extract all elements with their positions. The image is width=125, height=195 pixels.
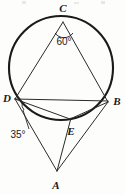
angle-label-35: 35° (10, 129, 25, 140)
main-circle (9, 16, 113, 120)
point-label-E: E (66, 125, 74, 137)
point-label-D: D (2, 92, 11, 104)
point-label-C: C (59, 2, 67, 14)
geometry-figure: C D B E A 60° 35° (0, 0, 125, 195)
geometry-canvas: C D B E A 60° 35° (0, 0, 125, 195)
angle-label-60: 60° (56, 36, 71, 47)
point-label-A: A (51, 179, 59, 191)
point-label-B: B (112, 95, 120, 107)
secant-A-B (57, 102, 108, 171)
chord-D-B (15, 99, 108, 101)
angle-leader-line-35 (23, 110, 29, 129)
